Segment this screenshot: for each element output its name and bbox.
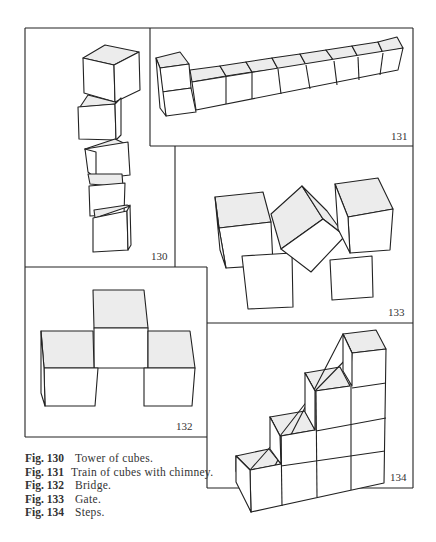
caption-134: Fig. 134Steps. [25, 506, 213, 520]
caption-131: Fig. 131Train of cubes with chimney. [25, 466, 213, 480]
fig-134-steps-drawing [236, 330, 386, 512]
fig-133-gate-drawing [215, 178, 393, 309]
caption-132: Fig. 132Bridge. [25, 479, 213, 493]
fig-132-number: 132 [176, 420, 193, 432]
fig-132-bridge-drawing [41, 290, 195, 406]
fig-130-number: 130 [151, 250, 168, 262]
fig-130-tower-drawing [78, 45, 140, 252]
fig-133-number: 133 [388, 306, 405, 318]
fig-131-train-drawing [156, 37, 403, 116]
fig-131-number: 131 [391, 130, 408, 142]
caption-130: Fig. 130Tower of cubes. [25, 452, 213, 466]
caption-133: Fig. 133Gate. [25, 493, 213, 507]
fig-134-number: 134 [390, 471, 407, 483]
figure-captions: Fig. 130Tower of cubes. Fig. 131Train of… [25, 452, 213, 520]
